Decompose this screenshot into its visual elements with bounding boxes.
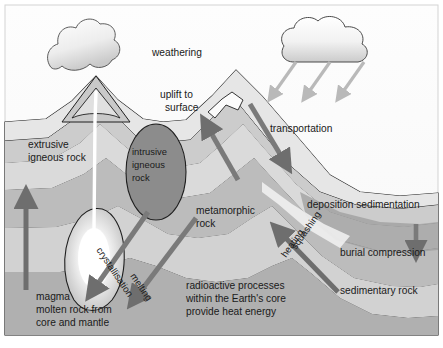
label-intrusive-line1: intrusive	[132, 146, 167, 157]
rock-cycle-illustration: weathering uplift to surface transportat…	[0, 0, 443, 348]
label-core-line3: provide heat energy	[186, 306, 277, 317]
label-intrusive-line3: rock	[132, 172, 150, 183]
label-magma-line2: molten rock from	[36, 304, 112, 315]
label-magma-line1: magma	[36, 291, 70, 302]
label-deposition: deposition sedimentation	[307, 199, 420, 210]
label-intrusive-line2: igneous	[132, 159, 165, 170]
label-extrusive-line2: igneous rock	[28, 152, 87, 163]
label-core-line2: within the Earth's core	[185, 293, 286, 304]
label-transportation: transportation	[270, 123, 332, 134]
rock-cycle-diagram: weathering uplift to surface transportat…	[0, 0, 443, 348]
label-metamorphic-line1: metamorphic	[196, 205, 255, 216]
label-burial-compression: burial compression	[340, 247, 426, 258]
label-weathering: weathering	[151, 47, 202, 58]
label-magma-line3: core and mantle	[36, 317, 109, 328]
label-metamorphic-line2: rock	[196, 218, 216, 229]
volcano-conduit	[94, 92, 96, 230]
label-uplift-line2: surface	[165, 102, 199, 113]
label-core-line1: radioactive processes	[186, 280, 285, 291]
label-uplift-line1: uplift to	[160, 89, 193, 100]
label-sedimentary-rock: sedimentary rock	[340, 285, 418, 296]
label-extrusive-line1: extrusive	[28, 139, 69, 150]
